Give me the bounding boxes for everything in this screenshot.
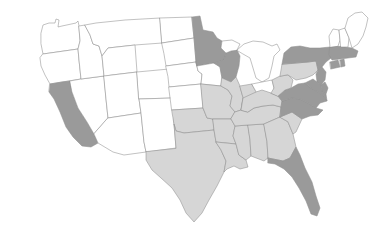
- state-AR[interactable]: [213, 119, 236, 144]
- state-KS[interactable]: [169, 84, 203, 110]
- state-RI[interactable]: [340, 59, 345, 67]
- state-CT[interactable]: [330, 60, 340, 69]
- state-VT[interactable]: [329, 29, 340, 47]
- state-CO[interactable]: [137, 69, 172, 99]
- state-SD[interactable]: [162, 38, 196, 66]
- state-OR[interactable]: [40, 49, 81, 84]
- state-MN[interactable]: [192, 16, 226, 66]
- state-UT[interactable]: [104, 72, 141, 118]
- us-choropleth-map: [0, 0, 377, 238]
- state-MA[interactable]: [329, 46, 358, 60]
- state-NM[interactable]: [139, 98, 176, 152]
- us-map-svg: [0, 0, 377, 238]
- state-WA[interactable]: [41, 19, 80, 54]
- state-WY[interactable]: [102, 45, 137, 76]
